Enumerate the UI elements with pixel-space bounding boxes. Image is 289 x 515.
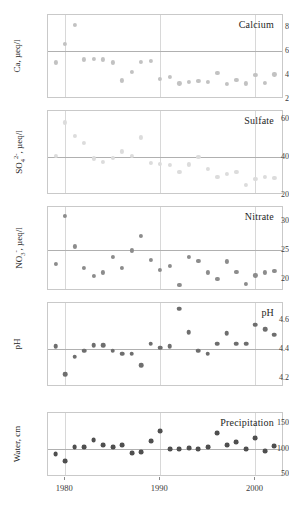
data-point xyxy=(73,244,77,248)
data-point xyxy=(187,255,191,259)
data-point xyxy=(177,283,181,287)
data-point xyxy=(225,331,230,336)
data-point xyxy=(63,42,67,46)
data-point xyxy=(224,442,229,447)
data-point xyxy=(177,81,181,85)
data-point xyxy=(225,82,229,86)
data-point xyxy=(234,270,238,274)
data-point xyxy=(73,23,77,27)
gridline-1990 xyxy=(160,413,161,475)
data-point xyxy=(187,162,191,166)
data-point xyxy=(82,444,87,449)
data-point xyxy=(101,443,106,448)
data-point xyxy=(206,167,210,171)
data-point xyxy=(82,57,86,61)
y-tick-label: 4.4 xyxy=(245,344,289,353)
data-point xyxy=(130,70,134,74)
data-point xyxy=(73,134,77,138)
data-point xyxy=(82,140,86,144)
data-point xyxy=(177,170,181,174)
data-point xyxy=(177,306,182,311)
data-point xyxy=(139,363,144,368)
data-point xyxy=(158,346,163,351)
y-tick-label: 20 xyxy=(245,190,289,199)
data-point xyxy=(168,264,172,268)
gridline-1980 xyxy=(65,413,66,475)
data-point xyxy=(168,344,173,349)
panel-calcium: Calcium2468Ca, µeq/l xyxy=(0,14,289,98)
data-point xyxy=(111,255,115,259)
data-point xyxy=(206,270,210,274)
data-point xyxy=(215,341,220,346)
data-point xyxy=(168,163,172,167)
data-point xyxy=(72,445,77,450)
data-point xyxy=(253,177,257,181)
y-tick-label: 4.2 xyxy=(245,373,289,382)
data-point xyxy=(139,450,144,455)
data-point xyxy=(215,431,220,436)
data-point xyxy=(53,452,58,457)
data-point xyxy=(54,60,58,64)
y-tick-label: 25 xyxy=(245,245,289,254)
data-point xyxy=(91,438,96,443)
x-tick-mark xyxy=(159,477,160,480)
data-point xyxy=(72,354,77,359)
data-point xyxy=(158,267,162,271)
data-point xyxy=(111,155,115,159)
gridline-1980 xyxy=(65,15,66,97)
data-point xyxy=(63,372,68,377)
data-point xyxy=(168,75,172,79)
data-point xyxy=(234,170,238,174)
data-point xyxy=(120,149,124,153)
data-point xyxy=(139,234,143,238)
y-axis-label: Ca, µeq/l xyxy=(12,39,22,72)
y-tick-label: 100 xyxy=(245,443,289,452)
y-tick-label: 30 xyxy=(245,216,289,225)
gridline-1990 xyxy=(160,111,161,193)
data-point xyxy=(92,57,96,61)
data-point xyxy=(110,445,115,450)
data-point xyxy=(63,120,67,124)
data-point xyxy=(101,270,105,274)
data-point xyxy=(234,341,239,346)
data-point xyxy=(158,162,162,166)
data-point xyxy=(101,160,105,164)
x-tick-label: 2000 xyxy=(246,483,263,493)
y-tick-label: 6 xyxy=(245,46,289,55)
data-point xyxy=(120,351,125,356)
data-point xyxy=(263,327,268,332)
y-tick-label: 60 xyxy=(245,113,289,122)
data-point xyxy=(196,155,200,159)
y-axis-label: NO3-, µeq/l xyxy=(12,227,26,269)
data-point xyxy=(91,343,96,348)
data-point xyxy=(149,258,153,262)
y-axis-label: pH xyxy=(12,339,22,350)
data-point xyxy=(120,78,124,82)
data-point xyxy=(225,172,229,176)
y-tick-label: 150 xyxy=(245,418,289,427)
gridline-1990 xyxy=(160,207,161,289)
data-point xyxy=(187,80,191,84)
data-point xyxy=(120,266,124,270)
y-tick-label: 8 xyxy=(245,22,289,31)
data-point xyxy=(244,81,248,85)
data-point xyxy=(177,446,182,451)
data-point xyxy=(196,79,200,83)
data-point xyxy=(158,429,163,434)
data-point xyxy=(272,333,277,338)
y-tick-label: 2 xyxy=(245,94,289,103)
data-point xyxy=(272,176,276,180)
data-point xyxy=(54,262,58,266)
data-point xyxy=(215,71,219,75)
data-point xyxy=(263,175,267,179)
y-axis-label: Water, cm xyxy=(12,426,22,462)
data-point xyxy=(167,446,172,451)
data-point xyxy=(244,182,248,186)
precipitation-chemistry-figure: Calcium2468Ca, µeq/lSulfate204060SO42-, … xyxy=(0,0,289,515)
data-point xyxy=(206,80,210,84)
data-point xyxy=(149,160,153,164)
data-point xyxy=(101,343,106,348)
panel-nitrate: Nitrate202530NO3-, µeq/l xyxy=(0,206,289,290)
data-point xyxy=(263,81,267,85)
x-tick-label: 1980 xyxy=(56,483,73,493)
